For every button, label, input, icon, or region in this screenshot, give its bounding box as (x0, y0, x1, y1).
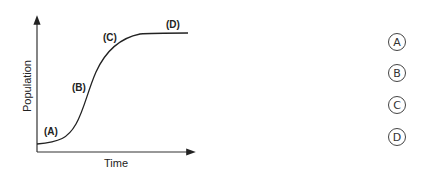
growth-curve (37, 33, 188, 144)
option-b[interactable]: B (388, 64, 406, 82)
label-a: (A) (44, 126, 58, 137)
y-axis-label: Population (21, 60, 33, 112)
population-growth-graph: (A) (B) (C) (D) Time Population (0, 0, 220, 172)
option-b-label: B (393, 67, 401, 80)
label-d: (D) (166, 19, 180, 30)
label-c: (C) (103, 32, 117, 43)
option-a[interactable]: A (388, 33, 406, 51)
option-d-label: D (393, 131, 401, 144)
label-b: (B) (72, 82, 86, 93)
x-axis-label: Time (104, 157, 128, 169)
option-c[interactable]: C (388, 96, 406, 114)
option-c-label: C (393, 99, 401, 112)
option-a-label: A (393, 36, 401, 49)
option-d[interactable]: D (388, 128, 406, 146)
